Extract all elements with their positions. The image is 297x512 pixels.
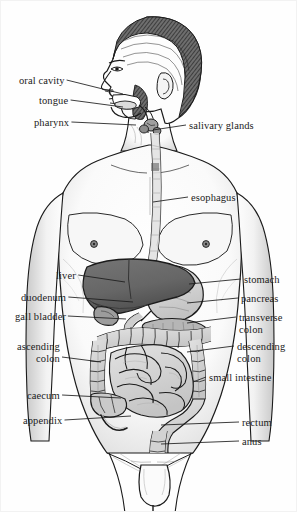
label-pharynx: pharynx xyxy=(34,117,69,129)
label-anus: anus xyxy=(242,436,262,448)
pelvic-region xyxy=(107,453,193,512)
head-profile xyxy=(101,17,201,145)
label-tongue: tongue xyxy=(39,95,68,107)
label-pancreas: pancreas xyxy=(241,293,279,305)
label-duodenum: duodenum xyxy=(21,292,66,304)
label-descending-colon: descending colon xyxy=(237,341,285,364)
label-stomach: stomach xyxy=(244,274,280,286)
label-appendix: appendix xyxy=(23,415,62,427)
label-liver: liver xyxy=(56,270,76,282)
label-small-intestine: small intestine xyxy=(209,372,271,384)
label-ascending-colon: ascending colon xyxy=(17,341,60,364)
label-gall-bladder: gall bladder xyxy=(15,311,66,323)
label-rectum: rectum xyxy=(242,417,272,429)
label-oral-cavity: oral cavity xyxy=(19,75,65,87)
label-transverse-colon: transverse colon xyxy=(239,312,283,335)
digestive-system-figure: oral cavitytonguepharynxliverduodenumgal… xyxy=(0,0,297,512)
label-salivary-glands: salivary glands xyxy=(189,120,254,132)
ascending-colon-organ xyxy=(90,339,107,397)
label-esophagus: esophagus xyxy=(191,192,236,204)
leader-line xyxy=(71,122,136,125)
label-caecum: caecum xyxy=(27,390,60,402)
